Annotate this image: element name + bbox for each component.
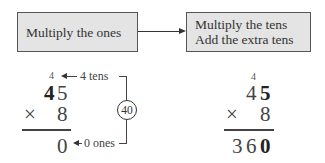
ones-arrow-line xyxy=(78,143,82,144)
right-multiplicand-tens: 4 xyxy=(246,83,257,104)
right-sum-rule xyxy=(224,129,274,131)
tens-arrow-line xyxy=(66,76,77,77)
left-sum-rule xyxy=(22,129,71,131)
right-result-ones: 0 xyxy=(260,136,271,157)
left-result-ones: 0 xyxy=(57,136,68,157)
step-box-multiply-tens: Multiply the tens Add the extra tens xyxy=(186,12,311,52)
step-box-multiply-ones: Multiply the ones xyxy=(17,12,138,52)
right-result-hundreds: 3 xyxy=(232,136,243,157)
vertical-connector-bottom xyxy=(126,120,127,144)
left-operator: × xyxy=(24,104,36,125)
right-result-tens: 6 xyxy=(246,136,257,157)
vertical-connector-top xyxy=(126,76,127,100)
left-multiplicand-tens: 4 xyxy=(44,83,55,104)
left-multiplicand-ones: 5 xyxy=(57,83,68,104)
arrow-right-icon xyxy=(179,28,186,34)
ones-connector xyxy=(119,143,127,144)
flow-arrow-line xyxy=(138,31,180,32)
step1-text: Multiply the ones xyxy=(26,25,129,40)
tens-label: 4 tens xyxy=(80,70,108,82)
left-carry-digit: 4 xyxy=(49,71,54,81)
step2-line1: Multiply the tens xyxy=(195,17,302,32)
ones-label: 0 ones xyxy=(84,137,115,149)
right-multiplier: 8 xyxy=(260,104,271,125)
right-operator: × xyxy=(226,104,238,125)
left-multiplier: 8 xyxy=(57,104,68,125)
step2-line2: Add the extra tens xyxy=(195,32,302,47)
product-value: 40 xyxy=(121,104,133,116)
right-multiplicand-ones: 5 xyxy=(260,83,271,104)
product-circle: 40 xyxy=(117,100,137,120)
